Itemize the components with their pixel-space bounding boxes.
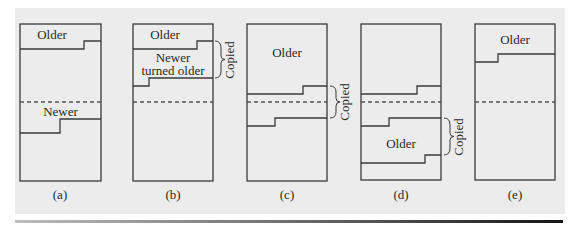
region-label-turned-older-b: turned older — [133, 64, 213, 78]
region-label-older-b: Older — [133, 28, 197, 42]
boundary-3-d — [361, 155, 441, 163]
copied-label-d: Copied — [452, 112, 466, 162]
caption-a: (a) — [40, 187, 80, 203]
newer-boundary-a — [20, 119, 101, 133]
caption-e: (e) — [495, 187, 535, 203]
newer-boundary-b — [133, 78, 213, 86]
region-label-newer-a: Newer — [20, 105, 101, 119]
region-label-older-e: Older — [475, 33, 555, 47]
boundary-2-d — [361, 118, 441, 126]
boundary-1-d — [361, 86, 441, 94]
copied-label-c: Copied — [338, 77, 352, 127]
older-boundary-a — [20, 41, 101, 49]
memory-box-e — [475, 24, 555, 180]
memory-box-b — [133, 24, 213, 181]
region-label-older-c: Older — [247, 46, 327, 60]
older-boundary-c — [247, 86, 327, 94]
older-boundary-e — [475, 54, 555, 62]
caption-c: (c) — [267, 187, 307, 203]
region-label-older-a: Older — [20, 28, 84, 42]
memory-box-a — [20, 24, 101, 181]
memory-box-d — [361, 24, 441, 180]
copied-label-b: Copied — [223, 35, 237, 85]
copied-boundary-c — [247, 118, 327, 126]
caption-b: (b) — [153, 187, 193, 203]
caption-d: (d) — [381, 187, 421, 203]
region-label-older-d: Older — [361, 137, 441, 151]
older-boundary-b — [133, 41, 213, 49]
